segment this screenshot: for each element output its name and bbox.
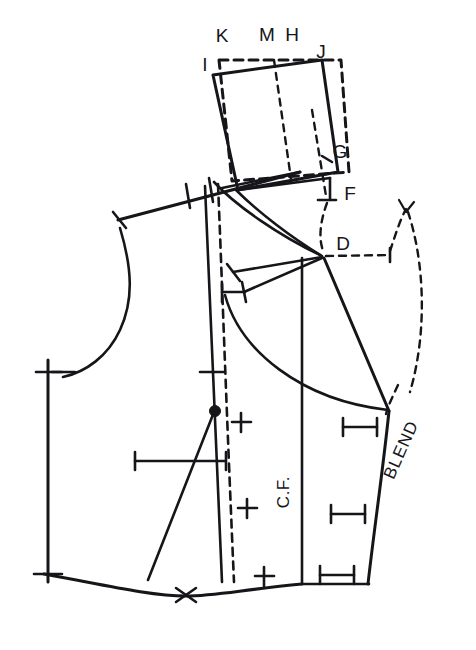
ibar-marks-group [320,418,377,584]
ibar-mark [343,418,377,436]
armhole-curve [63,228,130,377]
label-K: K [216,25,229,46]
dashed-arc-F-to-D [320,203,327,253]
label-D: D [336,233,350,254]
plus-marks-group [232,413,274,586]
center-panel-verticals-group [205,184,302,584]
dashed-arc-rising [390,209,406,251]
tick-shoulder-left [113,212,126,228]
side-seam-D-to-hip [324,258,389,411]
strap-dashed-center-line [274,60,292,186]
curve-shoulder-to-D-outer [236,190,322,256]
label-H: H [285,24,299,45]
ibar-mark [320,566,354,584]
bust-point-dot [210,406,221,417]
dashed-arc-inner-blend [386,385,398,414]
plus-mark [255,567,274,586]
bust-dart-group [135,372,226,580]
label-M: M [259,24,275,45]
label-F: F [344,183,356,204]
ibar-mark [331,505,365,523]
blend-arrowhead [399,200,414,212]
label-J: J [316,41,326,62]
tick-shoulder-mid [186,184,190,208]
right-panel-side-seam [368,411,389,584]
arrow-tick-upper [227,264,240,281]
plus-mark [238,499,257,518]
plus-mark [232,413,251,432]
tick-at-G [322,156,332,162]
left-side-seam-group [34,360,62,582]
dart-leg-to-hem-left [148,412,214,580]
dashed-horizontal-from-D [326,255,390,256]
label-I: I [202,54,207,75]
right-panel-group [302,411,389,584]
tick-shoulder-right [209,178,213,202]
label-G: G [333,141,348,162]
annotations-group: C.F. BLEND [274,418,422,508]
shoulder-neckline-group [52,172,300,377]
pattern-drawing: K M H J I G F D C.F. BLEND [0,0,476,650]
label-center-front: C.F. [274,476,293,508]
dashed-line-to-F [312,110,326,196]
shoulder-strap-group [213,60,349,190]
dashed-arc-descending [408,212,422,392]
pattern-diagram-root: K M H J I G F D C.F. BLEND [0,0,476,650]
